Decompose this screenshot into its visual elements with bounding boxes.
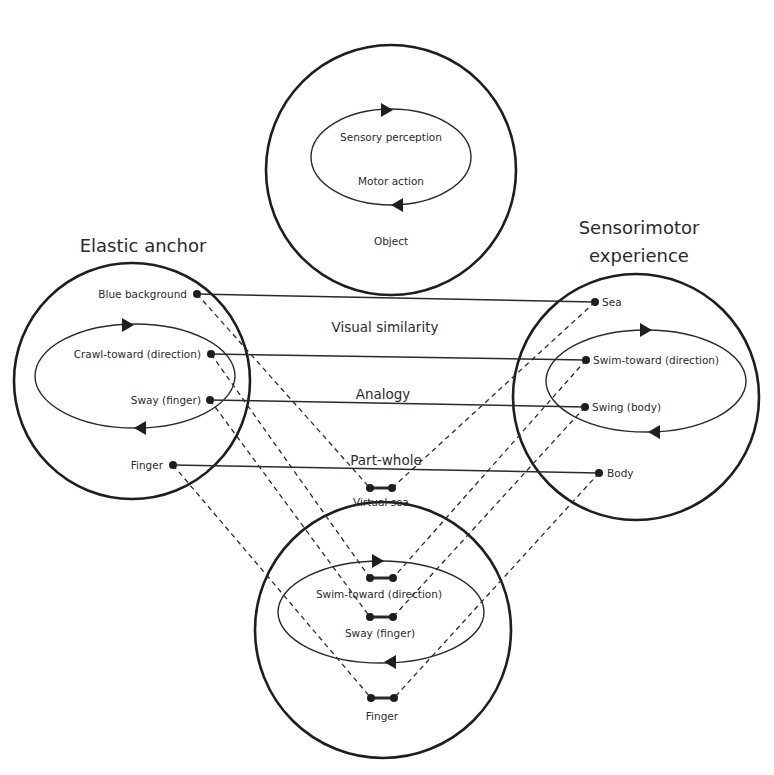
motor-action-label: Motor action bbox=[358, 175, 424, 187]
swim-toward-label: Swim-toward (direction) bbox=[593, 354, 719, 366]
sensory-perception-label: Sensory perception bbox=[340, 131, 442, 143]
loop-arrow-left-icon bbox=[391, 198, 403, 212]
dot-blend-sway-right bbox=[389, 613, 397, 621]
projection-right-swing bbox=[393, 407, 585, 617]
dot-blend-finger-left bbox=[367, 694, 375, 702]
blend-sway-finger-label: Sway (finger) bbox=[345, 627, 415, 639]
dot-swing-body bbox=[581, 403, 589, 411]
swing-body-label: Swing (body) bbox=[592, 401, 661, 413]
right-space: Sensorimotor experience Sea Swim-toward … bbox=[513, 217, 759, 520]
conceptual-blending-diagram: Sensory perception Motor action Object E… bbox=[0, 0, 774, 775]
projection-right-body bbox=[394, 473, 599, 698]
left-loop-ellipse bbox=[35, 324, 235, 428]
loop-arrow-left-icon bbox=[134, 421, 146, 435]
cross-space-mappings: Visual similarity Analogy Part-whole bbox=[173, 294, 599, 473]
loop-arrow-right-icon bbox=[372, 554, 384, 568]
visual-similarity-label: Visual similarity bbox=[332, 319, 439, 335]
blend-space: Virtual sea Swim-toward (direction) Sway… bbox=[255, 496, 511, 758]
blend-loop-ellipse bbox=[278, 561, 484, 663]
dot-blend-swim-right bbox=[389, 574, 397, 582]
dot-blue-background bbox=[193, 290, 201, 298]
sensorimotor-title-line1: Sensorimotor bbox=[579, 217, 700, 238]
dot-blend-sway-left bbox=[366, 613, 374, 621]
dot-blend-virtual-sea-right bbox=[388, 484, 396, 492]
dot-crawl-toward bbox=[207, 350, 215, 358]
virtual-sea-label: Virtual sea bbox=[353, 496, 409, 508]
mapping-line-crawl-swim bbox=[211, 354, 586, 360]
object-label: Object bbox=[374, 235, 408, 247]
blue-background-label: Blue background bbox=[98, 288, 187, 300]
elastic-anchor-title: Elastic anchor bbox=[80, 235, 207, 256]
dot-blend-finger-right bbox=[390, 694, 398, 702]
body-label: Body bbox=[607, 467, 634, 479]
loop-arrow-left-icon bbox=[648, 425, 660, 439]
loop-arrow-right-icon bbox=[381, 103, 393, 117]
left-space: Elastic anchor Blue background Crawl-tow… bbox=[14, 235, 250, 499]
sensorimotor-title-line2: experience bbox=[589, 245, 689, 266]
dot-blend-virtual-sea-left bbox=[366, 484, 374, 492]
loop-arrow-left-icon bbox=[384, 655, 396, 669]
top-space: Sensory perception Motor action Object bbox=[266, 45, 516, 295]
sea-label: Sea bbox=[602, 296, 622, 308]
dot-body bbox=[595, 469, 603, 477]
dot-finger bbox=[169, 461, 177, 469]
blend-swim-toward-label: Swim-toward (direction) bbox=[316, 588, 442, 600]
crawl-toward-label: Crawl-toward (direction) bbox=[74, 348, 201, 360]
finger-label: Finger bbox=[131, 459, 164, 471]
analogy-label: Analogy bbox=[356, 386, 411, 402]
dot-swim-toward bbox=[582, 356, 590, 364]
right-space-circle bbox=[513, 274, 759, 520]
blend-finger-label: Finger bbox=[366, 710, 399, 722]
top-loop-ellipse bbox=[311, 109, 471, 205]
top-space-circle bbox=[266, 45, 516, 295]
dot-sea bbox=[591, 298, 599, 306]
dot-blend-swim-left bbox=[366, 574, 374, 582]
dot-sway-finger bbox=[206, 396, 214, 404]
projection-left-finger bbox=[173, 465, 371, 698]
part-whole-label: Part-whole bbox=[350, 452, 421, 468]
sway-finger-label: Sway (finger) bbox=[131, 394, 201, 406]
loop-arrow-right-icon bbox=[122, 318, 134, 332]
loop-arrow-right-icon bbox=[640, 323, 652, 337]
